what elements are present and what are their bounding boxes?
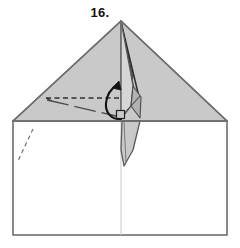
right-angle-marker-group	[117, 111, 125, 119]
origami-diagram-svg	[0, 0, 240, 248]
body-rectangle-group	[13, 121, 227, 235]
right-angle-marker	[117, 111, 125, 119]
body-rectangle	[13, 121, 227, 235]
origami-step-figure: 16.	[0, 0, 240, 248]
